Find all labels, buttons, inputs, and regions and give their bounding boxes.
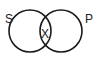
venn-diagram: S P X [0,0,97,62]
intersection-label: X [41,27,49,41]
set-p-label: P [85,12,93,26]
set-s-label: S [5,12,13,26]
